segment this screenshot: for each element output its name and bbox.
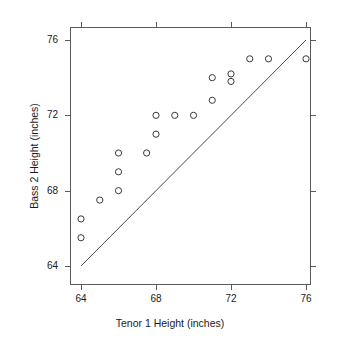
y-tick-right	[311, 40, 316, 41]
x-tick-label: 68	[136, 293, 176, 304]
x-tick-label: 76	[286, 293, 326, 304]
x-tick-top	[306, 22, 307, 27]
y-tick-right	[311, 191, 316, 192]
y-tick-right	[311, 115, 316, 116]
x-tick	[231, 285, 232, 290]
y-axis-label: Bass 2 Height (inches)	[28, 36, 40, 276]
x-tick-label: 64	[61, 293, 101, 304]
y-tick	[65, 266, 70, 267]
y-tick	[65, 40, 70, 41]
y-tick	[65, 191, 70, 192]
x-tick	[81, 285, 82, 290]
x-tick-top	[156, 22, 157, 27]
y-tick-right	[311, 266, 316, 267]
x-tick-top	[231, 22, 232, 27]
x-axis-label: Tenor 1 Height (inches)	[0, 317, 340, 329]
x-tick	[156, 285, 157, 290]
y-tick	[65, 115, 70, 116]
plot-frame	[70, 27, 311, 285]
x-tick	[306, 285, 307, 290]
scatter-plot-figure: 6468727664687276 Tenor 1 Height (inches)…	[0, 0, 340, 345]
x-tick-label: 72	[211, 293, 251, 304]
x-tick-top	[81, 22, 82, 27]
